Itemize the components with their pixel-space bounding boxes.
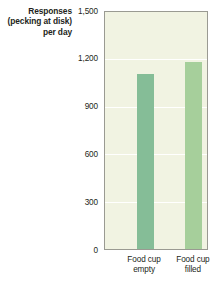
plot-area [104,11,208,250]
y-tick-label-1200: 1,200 [68,54,98,63]
x-tick-label-empty-line-1: Food cup [117,255,171,265]
bar-food-cup-empty [137,74,154,249]
x-tick-label-food-cup-empty: Food cup empty [117,255,171,275]
y-tick-label-300: 300 [68,198,98,207]
x-tick-label-food-cup-filled: Food cup filled [166,255,220,275]
y-tick-label-0: 0 [68,246,98,255]
bar-chart-figure: Responses (pecking at disk) per day 1,50… [0,0,220,287]
y-tick-label-900: 900 [68,102,98,111]
bar-food-cup-filled [185,62,202,249]
y-axis-title: Responses (pecking at disk) per day [0,6,72,37]
gridline-1200 [105,59,207,60]
x-tick-label-filled-line-2: filled [166,265,220,275]
y-axis-title-line-1: Responses [0,6,72,16]
x-tick-label-filled-line-1: Food cup [166,255,220,265]
y-axis-title-line-3: per day [0,27,72,37]
y-tick-label-600: 600 [68,150,98,159]
y-tick-label-1500: 1,500 [68,7,98,16]
x-tick-label-empty-line-2: empty [117,265,171,275]
y-axis-title-line-2: (pecking at disk) [0,16,72,26]
